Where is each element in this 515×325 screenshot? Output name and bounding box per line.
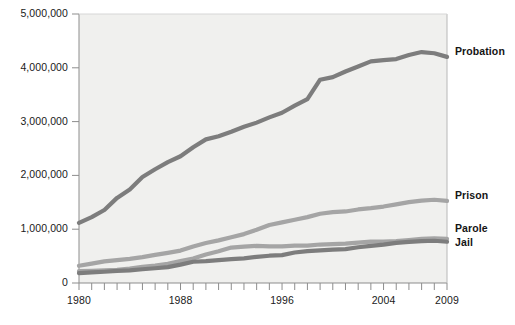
y-axis-ticks (72, 14, 79, 283)
series-label-probation: Probation (455, 45, 505, 57)
chart-canvas (0, 0, 515, 325)
x-axis-tick-label: 1980 (49, 294, 109, 306)
x-axis-tick-label: 1996 (252, 294, 312, 306)
x-axis-tick-label: 2009 (417, 294, 477, 306)
y-axis-tick-label: 1,000,000 (20, 222, 68, 234)
x-axis-ticks (79, 283, 447, 290)
y-axis-tick-label: 0 (62, 276, 68, 288)
series-label-prison: Prison (455, 189, 488, 201)
y-axis-tick-label: 4,000,000 (20, 61, 68, 73)
line-chart: 01,000,0002,000,0003,000,0004,000,0005,0… (0, 0, 515, 325)
series-label-jail: Jail (455, 236, 473, 248)
y-axis-tick-label: 2,000,000 (20, 168, 68, 180)
series-label-parole: Parole (455, 222, 488, 234)
y-axis-tick-label: 5,000,000 (20, 7, 68, 19)
x-axis-tick-label: 1988 (151, 294, 211, 306)
y-axis-tick-label: 3,000,000 (20, 115, 68, 127)
x-axis-tick-label: 2004 (354, 294, 414, 306)
